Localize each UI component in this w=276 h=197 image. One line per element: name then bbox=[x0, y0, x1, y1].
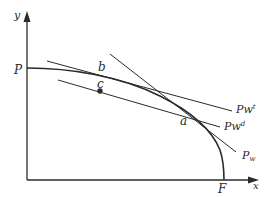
point-a-label: a bbox=[180, 115, 187, 127]
price-line-pwd-label: Pwd bbox=[224, 121, 245, 132]
pwt-base: Pw bbox=[236, 103, 253, 116]
price-line-pw-label: Pw bbox=[242, 150, 255, 161]
x-intercept-label-f: F bbox=[218, 183, 226, 195]
pwd-base: Pw bbox=[224, 120, 241, 133]
point-c-label: c bbox=[97, 78, 104, 90]
y-axis-arrow-icon bbox=[24, 11, 31, 22]
point-b-label: b bbox=[98, 61, 106, 73]
y-intercept-label-p: P bbox=[14, 64, 22, 76]
axes bbox=[24, 11, 260, 184]
ppf-curve bbox=[27, 68, 224, 180]
price-line-pw bbox=[110, 54, 236, 152]
x-axis-label: x bbox=[253, 181, 259, 191]
price-lines bbox=[47, 54, 236, 152]
price-line-pwt-label: Pwt bbox=[236, 104, 256, 115]
pw-sub: w bbox=[249, 155, 255, 163]
ppf-diagram bbox=[0, 0, 276, 197]
y-axis-label: y bbox=[14, 10, 20, 21]
pwd-sup: d bbox=[241, 120, 245, 128]
pwt-sup: t bbox=[253, 103, 256, 111]
